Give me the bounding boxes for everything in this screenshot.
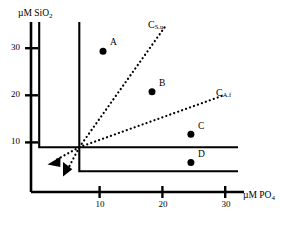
y-tick-label-10: 10 xyxy=(4,136,20,146)
y-tick-label-20: 20 xyxy=(4,89,20,99)
ratio-label-su-sub: S.u. xyxy=(155,23,165,30)
arrowhead-left xyxy=(48,157,61,167)
x-axis-title-base: µM PO xyxy=(243,190,271,200)
ratio-line-label-su: CS.u. xyxy=(148,19,165,30)
y-axis-title-base: µM SiO xyxy=(18,8,49,18)
silicate-phosphate-scatter-figure: µM SiO2 µM PO4 30 20 10 10 20 30 A B C D… xyxy=(0,0,295,235)
data-point-label-a: A xyxy=(110,37,117,47)
data-point-label-b: B xyxy=(159,78,165,88)
ratio-label-af-base: C xyxy=(216,87,223,98)
inner-threshold-line xyxy=(39,22,79,147)
y-axis-title: µM SiO2 xyxy=(18,8,53,20)
y-axis-title-sub: 2 xyxy=(49,12,53,20)
data-point-label-c: C xyxy=(198,121,204,131)
data-point-label-d: D xyxy=(198,149,205,159)
lower-threshold-line xyxy=(79,147,238,171)
x-tick-label-30: 30 xyxy=(217,199,235,209)
arrowhead-down xyxy=(63,162,72,177)
threshold-lines-group xyxy=(39,22,238,171)
x-tick-label-10: 10 xyxy=(91,199,109,209)
data-point-a xyxy=(100,48,107,55)
ratio-label-af-sub: A.f xyxy=(223,91,231,98)
x-axis-title: µM PO4 xyxy=(243,190,275,202)
x-axis-title-sub: 4 xyxy=(271,194,275,202)
ratio-line-label-af: CA.f xyxy=(216,87,231,98)
data-point-c xyxy=(187,131,194,138)
x-tick-label-20: 20 xyxy=(154,199,172,209)
data-points-group xyxy=(100,48,195,166)
axes-group xyxy=(31,22,244,192)
ratio-label-su-base: C xyxy=(148,19,155,30)
arrowheads-group xyxy=(48,157,73,177)
data-point-b xyxy=(149,88,156,95)
y-tick-label-30: 30 xyxy=(4,42,20,52)
data-point-d xyxy=(187,159,194,166)
ratio-line-su xyxy=(79,27,165,147)
